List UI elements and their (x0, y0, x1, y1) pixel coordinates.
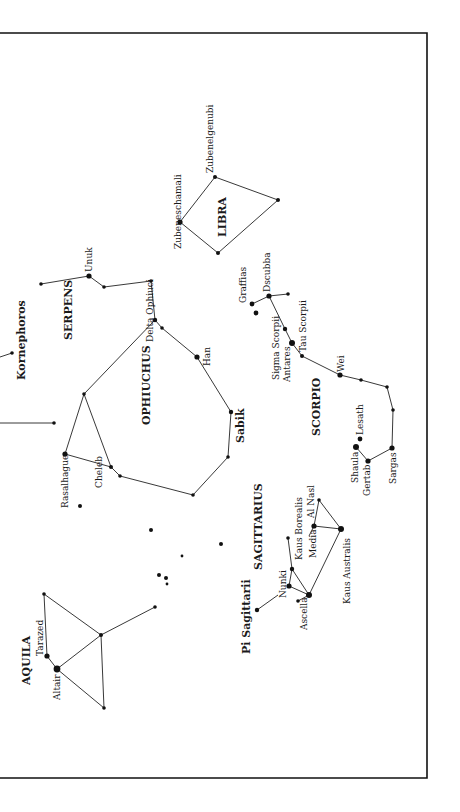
star-lesath (358, 437, 363, 442)
label-sigma-scorpii: Sigma Scorpii (271, 316, 281, 380)
label-gertab: Gertab (362, 464, 372, 496)
label-nunki: Nunki (278, 570, 288, 598)
star-pi-sagittarii (255, 608, 259, 612)
star (226, 455, 230, 459)
label-unuk: Unuk (84, 247, 94, 272)
star-tau-scorpii (300, 354, 304, 358)
star-kornephoros (10, 351, 14, 355)
label-sabik: Sabik (234, 408, 247, 443)
star-wei (337, 372, 342, 377)
libra-lines (180, 177, 278, 253)
star (276, 198, 280, 202)
label-sagittarius: SAGITTARIUS (252, 483, 265, 570)
star (118, 474, 122, 478)
star-sargas (389, 445, 394, 450)
star (102, 706, 106, 710)
label-shaula: Shaula (350, 451, 360, 483)
star (359, 378, 363, 382)
label-delta-ophiuci: Delta Ophiuci (145, 279, 155, 342)
star-kaus-borealis (286, 536, 290, 540)
star (181, 555, 184, 558)
label-lesath: Lesath (355, 404, 365, 435)
star (82, 392, 86, 396)
label-aquila: AQUILA (20, 635, 33, 686)
serpens-lines (41, 276, 155, 320)
star-dscubba (266, 293, 271, 298)
star-shaula (353, 444, 359, 450)
labels: Kornephoros Zubenelgenubi Zubeneschamali… (15, 104, 398, 701)
star-media (311, 523, 316, 528)
stars (10, 175, 395, 710)
star (99, 633, 103, 637)
star (39, 282, 43, 286)
label-zubenelgenubi: Zubenelgenubi (205, 104, 215, 173)
label-ophiuchus: OPHIUCHUS (140, 345, 153, 425)
label-rasalhague: Rasalhague (60, 455, 70, 508)
label-altair: Altair (52, 674, 62, 701)
star-chart: Kornephoros Zubenelgenubi Zubeneschamali… (0, 0, 460, 812)
label-media: Media (308, 529, 318, 558)
star-sigma-scorpii (283, 327, 287, 331)
star-tarazed (44, 653, 49, 658)
label-scorpio: SCORPIO (310, 377, 323, 436)
label-pi-sagittarii: Pi Sagittarii (240, 579, 253, 654)
label-graffias: Graffias (238, 267, 248, 303)
label-han: Han (202, 347, 212, 366)
star-zubenelgenubi (213, 175, 217, 179)
label-al-nasl: Al Nasl (306, 485, 316, 519)
star (216, 251, 220, 255)
label-libra: LIBRA (216, 197, 229, 237)
star-graffias (250, 302, 255, 307)
label-zubeneschamali: Zubeneschamali (173, 174, 183, 249)
label-tau-scorpii: Tau Scorpii (298, 300, 308, 352)
star (166, 583, 169, 586)
label-tarazed: Tarazed (35, 620, 45, 656)
star (385, 385, 389, 389)
star (102, 285, 106, 289)
label-kaus-borealis: Kaus Borealis (294, 497, 304, 560)
star (42, 592, 46, 596)
star (160, 326, 164, 330)
star-altair (54, 666, 61, 673)
star (149, 528, 153, 532)
star (52, 421, 56, 425)
star-ascella (306, 592, 312, 598)
star (391, 408, 395, 412)
label-dscubba: Dscubba (262, 252, 272, 292)
star (254, 311, 259, 316)
star-sabik (229, 410, 233, 414)
star (164, 576, 168, 580)
label-ascella: Ascella (299, 597, 309, 631)
star-cheleb (109, 465, 113, 469)
label-kaus-australis: Kaus Australis (342, 538, 352, 604)
label-serpens: SERPENS (62, 280, 75, 340)
label-sargas: Sargas (388, 452, 398, 484)
star-han (194, 354, 199, 359)
star-kaus-australis (338, 526, 344, 532)
star (157, 573, 161, 577)
star-gertab (365, 458, 370, 463)
star (191, 493, 195, 497)
star-al-nasl (317, 498, 321, 502)
label-cheleb: Cheleb (94, 456, 104, 488)
label-antares: Antares (282, 346, 292, 383)
star (153, 605, 157, 609)
star (219, 542, 223, 546)
star (78, 504, 82, 508)
star (290, 567, 294, 571)
star-unuk (86, 273, 91, 278)
star (286, 292, 290, 296)
star-antares (289, 340, 295, 346)
label-wei: Wei (336, 355, 346, 372)
label-kornephoros: Kornephoros (15, 300, 28, 380)
